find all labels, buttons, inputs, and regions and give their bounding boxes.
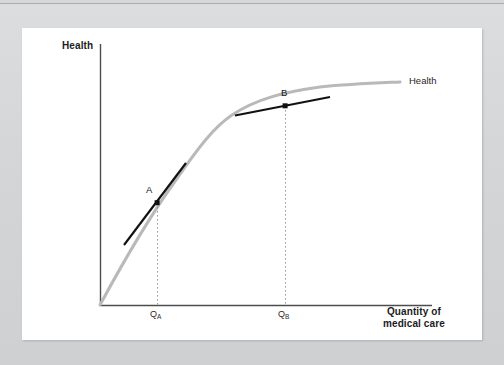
x-tick-label-qb-sub: B (285, 313, 289, 320)
point-marker-b (283, 103, 288, 108)
x-tick-label-qa-base: Q (150, 309, 157, 319)
curve-series-label: Health (409, 76, 436, 87)
health-curve (100, 82, 400, 305)
point-marker-a (155, 200, 160, 205)
x-tick-label-qb-base: Q (278, 309, 285, 319)
x-axis-label-line1: Quantity of (387, 306, 441, 317)
x-tick-label-qa: QA (150, 309, 161, 319)
figure-screenshot: Health Quantity of medical care Health A… (0, 0, 504, 365)
point-a-label: A (146, 185, 152, 196)
x-axis-label-line2: medical care (383, 318, 445, 329)
y-axis-label: Health (62, 40, 93, 52)
x-axis-label: Quantity of medical care (383, 306, 445, 329)
x-tick-label-qb: QB (278, 309, 289, 319)
point-b-label: B (281, 88, 287, 99)
x-tick-label-qa-sub: A (157, 313, 161, 320)
